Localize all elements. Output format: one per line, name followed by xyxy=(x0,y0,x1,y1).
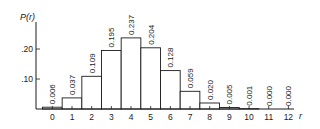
x-tick-label: 7 xyxy=(188,112,193,122)
bar-value-label: 0.109 xyxy=(88,53,97,74)
bar-value-label: 0.000 xyxy=(284,85,293,106)
bar-value-label: 0.020 xyxy=(206,79,215,100)
bar-value-label: 0.037 xyxy=(68,74,77,95)
bar-3 xyxy=(102,51,122,110)
x-tick-label: 4 xyxy=(129,112,134,122)
x-tick-label: 6 xyxy=(168,112,173,122)
x-tick-label: 0 xyxy=(50,112,55,122)
bar-value-label: 0.128 xyxy=(166,47,175,68)
bar-value-label: 0.001 xyxy=(245,85,254,106)
bar-4 xyxy=(121,38,141,109)
bar-value-label: 0.195 xyxy=(107,27,116,48)
bar-value-label: 0.237 xyxy=(127,14,136,35)
y-tick-label: .10 xyxy=(21,74,33,84)
bar-6 xyxy=(161,71,181,109)
bar-5 xyxy=(141,48,161,109)
x-tick-label: 3 xyxy=(109,112,114,122)
bar-value-label: 0.204 xyxy=(147,24,156,45)
x-tick-label: 10 xyxy=(244,112,254,122)
y-axis-label: P(r) xyxy=(20,12,35,22)
x-axis-label: r xyxy=(299,111,303,121)
y-axis-ticks: .10.20 xyxy=(21,44,40,84)
x-tick-label: 5 xyxy=(148,112,153,122)
x-tick-label: 1 xyxy=(70,112,75,122)
bar-value-label: 0.059 xyxy=(186,68,195,89)
y-tick-label: .20 xyxy=(21,44,33,54)
x-tick-label: 2 xyxy=(89,112,94,122)
bar-value-label: 0.000 xyxy=(265,85,274,106)
x-tick-label: 11 xyxy=(264,112,273,122)
bar-value-label: 0.006 xyxy=(48,84,57,105)
x-tick-label: 9 xyxy=(227,112,232,122)
bar-value-label: 0.005 xyxy=(225,84,234,105)
probability-histogram: 0.0060.0370.1090.1950.2370.2040.1280.059… xyxy=(0,0,320,129)
bar-2 xyxy=(82,76,102,109)
x-tick-label: 12 xyxy=(284,112,294,122)
x-tick-label: 8 xyxy=(207,112,212,122)
